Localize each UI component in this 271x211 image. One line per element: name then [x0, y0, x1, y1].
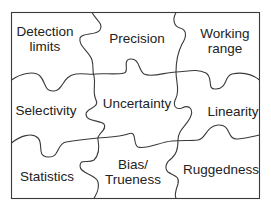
cut-horizontal-top — [12, 59, 260, 91]
label-line: Statistics — [20, 169, 74, 184]
label-line: Selectivity — [16, 103, 77, 118]
label-line: Working — [200, 26, 249, 41]
label-line: Linearity — [207, 104, 258, 119]
label-line: range — [200, 41, 249, 56]
cut-vertical-left — [80, 13, 105, 199]
label-line: Detection — [16, 24, 73, 39]
label-line: Uncertainty — [103, 96, 171, 111]
label-line: Bias/ — [105, 157, 161, 172]
piece-label-bias-trueness: Bias/ Trueness — [105, 157, 161, 187]
label-line: limits — [16, 39, 73, 54]
piece-label-linearity: Linearity — [207, 104, 258, 119]
label-line: Precision — [109, 31, 165, 46]
piece-label-working-range: Working range — [200, 26, 249, 56]
piece-label-precision: Precision — [109, 31, 165, 46]
piece-label-ruggedness: Ruggedness — [183, 162, 259, 177]
piece-label-detection-limits: Detection limits — [16, 24, 73, 54]
label-line: Trueness — [105, 172, 161, 187]
piece-label-selectivity: Selectivity — [16, 103, 77, 118]
label-line: Ruggedness — [183, 162, 259, 177]
piece-label-statistics: Statistics — [20, 169, 74, 184]
piece-label-uncertainty: Uncertainty — [103, 96, 171, 111]
cut-horizontal-bottom — [12, 125, 260, 157]
